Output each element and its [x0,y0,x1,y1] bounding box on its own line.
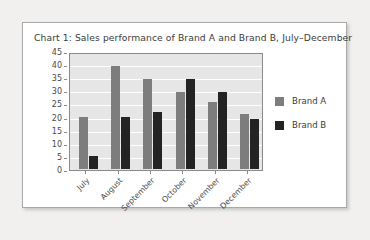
y-tick-mark [64,132,67,133]
y-tick-label-0: 0 [57,167,62,175]
y-tick-mark [64,145,67,146]
bar-brand-b-december [250,119,259,169]
y-tick-label-25: 25 [52,101,62,109]
bar-brand-b-august [121,117,130,169]
y-axis: 051015202530354045 [37,53,67,171]
bar-group-november [200,55,232,169]
y-tick-label-45: 45 [52,49,62,57]
y-tick-mark [64,158,67,159]
bar-brand-a-october [176,92,185,169]
y-tick-mark [64,79,67,80]
x-tick-mark [118,171,119,174]
y-tick-label-30: 30 [52,88,62,96]
y-tick-mark [64,66,67,67]
y-tick-mark [64,105,67,106]
bar-brand-a-august [111,66,120,169]
plot-area [69,53,263,171]
y-tick-label-40: 40 [52,62,62,70]
x-tick-mark [150,171,151,174]
y-tick-label-5: 5 [57,154,62,162]
y-tick-label-15: 15 [52,128,62,136]
y-tick-label-10: 10 [52,141,62,149]
y-tick-mark [64,53,67,54]
bar-brand-a-july [79,117,88,169]
y-tick-mark [64,171,67,172]
legend-label: Brand A [292,96,326,106]
bar-group-july [71,55,103,169]
bar-brand-b-september [153,112,162,169]
legend-item-brand-b[interactable]: Brand B [275,120,326,130]
x-tick-mark [215,171,216,174]
bar-brand-a-september [143,79,152,169]
legend-item-brand-a[interactable]: Brand A [275,96,326,106]
y-tick-mark [64,119,67,120]
bar-brand-a-december [240,114,249,169]
bar-brand-a-november [208,102,217,169]
legend-label: Brand B [292,120,326,130]
bar-brand-b-july [89,156,98,169]
x-tick-mark [247,171,248,174]
bar-group-august [103,55,135,169]
y-tick-label-20: 20 [52,115,62,123]
bar-brand-b-october [186,79,195,169]
chart-legend: Brand ABrand B [275,96,326,144]
legend-swatch-icon [275,121,284,130]
bar-group-december [233,55,263,169]
x-axis: JulyAugustSeptemberOctoberNovemberDecemb… [69,171,263,207]
bars-layer [71,55,261,169]
chart-card: Chart 1: Sales performance of Brand A an… [22,22,347,208]
chart-title: Chart 1: Sales performance of Brand A an… [34,32,352,43]
x-tick-mark [85,171,86,174]
plot-wrapper: 051015202530354045 [69,53,263,171]
bar-brand-b-november [218,92,227,169]
y-tick-label-35: 35 [52,75,62,83]
bar-group-september [136,55,168,169]
bar-group-october [168,55,200,169]
x-tick-mark [182,171,183,174]
y-tick-mark [64,92,67,93]
legend-swatch-icon [275,97,284,106]
